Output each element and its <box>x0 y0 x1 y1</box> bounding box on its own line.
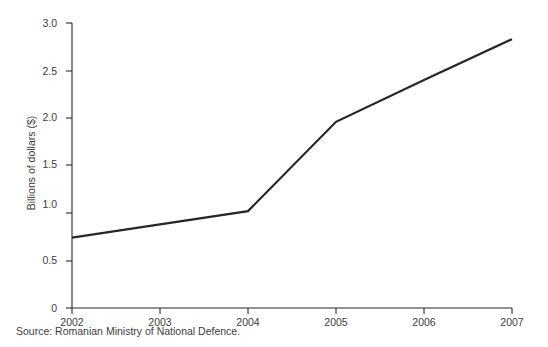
x-tick-label-2005: 2005 <box>324 316 348 328</box>
chart-plot-area: Billions of dollars ($) 3.0 2.5 2.0 1.5 … <box>0 0 548 347</box>
line-chart-figure: Billions of dollars ($) 3.0 2.5 2.0 1.5 … <box>0 0 548 347</box>
y-tick-label-1-0: 1.0 <box>42 198 57 210</box>
x-tick-label-2007: 2007 <box>500 316 524 328</box>
y-tick-label-2-5: 2.5 <box>42 65 57 77</box>
data-series-line <box>72 39 512 238</box>
y-tick-label-0: 0 <box>51 302 57 314</box>
y-tick-label-1-5: 1.5 <box>42 158 57 170</box>
x-tick-label-2006: 2006 <box>412 316 436 328</box>
y-axis-title: Billions of dollars ($) <box>25 116 37 211</box>
y-tick-label-0-5: 0.5 <box>42 254 57 266</box>
y-tick-label-2-0: 2.0 <box>42 111 57 123</box>
source-note: Source: Romanian Ministry of National De… <box>16 325 240 337</box>
y-tick-label-3-0: 3.0 <box>42 17 57 29</box>
